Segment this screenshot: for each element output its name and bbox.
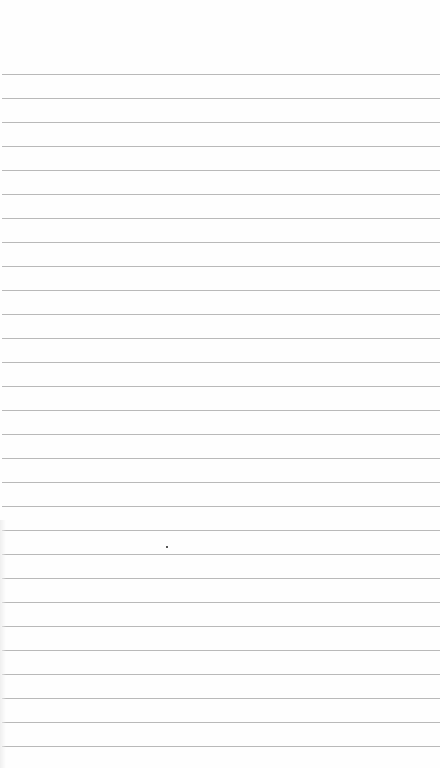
ruled-line xyxy=(2,98,440,99)
ruled-line xyxy=(2,626,440,627)
ruled-line xyxy=(2,338,440,339)
ruled-line xyxy=(2,242,440,243)
ruled-line xyxy=(2,458,440,459)
paper-edge-shadow xyxy=(0,520,6,768)
ruled-line xyxy=(2,122,440,123)
ruled-line xyxy=(2,482,440,483)
ruled-line xyxy=(2,434,440,435)
ruled-line xyxy=(2,266,440,267)
ruled-line xyxy=(2,410,440,411)
ruled-line xyxy=(2,290,440,291)
ruled-line xyxy=(2,530,440,531)
lined-paper xyxy=(0,0,440,768)
ruled-line xyxy=(2,578,440,579)
ruled-line xyxy=(2,722,440,723)
paper-speck xyxy=(166,546,168,548)
ruled-line xyxy=(2,386,440,387)
ruled-line xyxy=(2,554,440,555)
ruled-line xyxy=(2,746,440,747)
ruled-line xyxy=(2,194,440,195)
ruled-line xyxy=(2,314,440,315)
ruled-line xyxy=(2,218,440,219)
ruled-line xyxy=(2,506,440,507)
ruled-line xyxy=(2,362,440,363)
ruled-line xyxy=(2,74,440,75)
ruled-line xyxy=(2,650,440,651)
ruled-line xyxy=(2,146,440,147)
ruled-line xyxy=(2,170,440,171)
ruled-line xyxy=(2,698,440,699)
ruled-line xyxy=(2,602,440,603)
ruled-line xyxy=(2,674,440,675)
